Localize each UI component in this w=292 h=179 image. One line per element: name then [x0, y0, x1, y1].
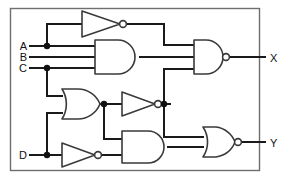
junction-mid-inverter-output	[161, 101, 167, 107]
wire-or-to-bottom-and	[104, 104, 122, 139]
not-top-bubble	[120, 21, 127, 28]
input-label-d: D	[19, 149, 27, 161]
output-label-y: Y	[270, 137, 278, 149]
wire-c-to-or	[47, 68, 62, 96]
logic-circuit-figure: A B C D X Y	[0, 0, 292, 179]
gate-nand-output-x	[194, 40, 229, 74]
gate-not-top	[82, 11, 126, 37]
wire-d-to-or	[47, 113, 62, 155]
wire-mid-inverter-to-nand	[164, 69, 194, 104]
junction-a	[44, 43, 50, 49]
not-bottom-bubble	[95, 152, 102, 159]
not-bottom-body	[62, 143, 95, 167]
gate-nor-output-y	[203, 127, 241, 157]
not-top-body	[82, 11, 120, 37]
and-top-body	[95, 40, 135, 74]
output-label-x: X	[270, 52, 278, 64]
circuit-diagram-canvas: A B C D X Y	[0, 0, 292, 179]
input-label-c: C	[19, 62, 27, 74]
not-middle-bubble	[155, 101, 162, 108]
wire-mid-inverter-to-nor	[164, 104, 203, 137]
nand-body	[194, 40, 223, 74]
gate-not-bottom	[62, 143, 101, 167]
nand-bubble	[223, 54, 230, 61]
junction-d	[44, 152, 50, 158]
wire-top-inverter-to-nand	[126, 24, 194, 45]
gate-and-top	[95, 40, 135, 74]
and-bottom-body	[122, 131, 164, 163]
not-middle-body	[122, 92, 155, 116]
gate-and-bottom	[122, 131, 164, 163]
junction-or-output	[101, 101, 107, 107]
gate-not-middle	[122, 92, 161, 116]
nor-body	[203, 127, 235, 157]
nor-bubble	[235, 139, 242, 146]
junction-c	[44, 65, 50, 71]
gate-or-middle	[62, 89, 100, 119]
or-middle-body	[62, 89, 100, 119]
wire-a-to-top-inverter	[47, 24, 82, 46]
